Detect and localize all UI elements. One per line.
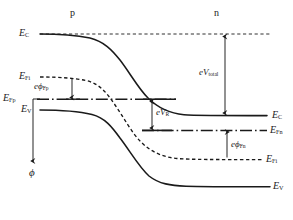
- annotation-e-phi-fp: eϕFp: [34, 82, 49, 92]
- label-ec-left: EC: [19, 28, 29, 39]
- label-phi-axis: ϕ: [29, 167, 35, 178]
- annotation-e-v-total: eVtotal: [199, 68, 218, 78]
- label-efn: EFn: [270, 125, 283, 136]
- label-ev-right: EV: [273, 181, 284, 192]
- region-label-n: n: [214, 8, 219, 18]
- intrinsic-fermi-level-curve: [40, 77, 262, 160]
- band-diagram-figure: p n EC EFi EFp EV eϕFp eVR eVtotal eϕFn …: [0, 0, 293, 220]
- region-label-p: p: [70, 8, 75, 18]
- annotation-e-phi-fn: eϕFn: [231, 140, 246, 150]
- label-ec-right: EC: [272, 110, 282, 121]
- conduction-band-curve: [40, 34, 267, 116]
- label-ev-left: EV: [21, 104, 32, 115]
- label-efp: EFp: [3, 93, 16, 104]
- label-efi-right: EFi: [266, 154, 277, 165]
- annotation-e-v-r: eVR: [156, 108, 169, 118]
- band-diagram-canvas: [0, 0, 293, 220]
- label-efi-left: EFi: [19, 71, 30, 82]
